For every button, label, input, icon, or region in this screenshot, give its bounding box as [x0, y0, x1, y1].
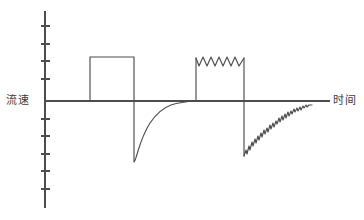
plot-area — [0, 0, 364, 220]
y-axis-label: 流速 — [6, 95, 29, 106]
pulse-two-sawtooth-top — [196, 57, 244, 66]
pulse-one-rectangular — [90, 57, 134, 101]
undershoot-two-recovery — [244, 105, 312, 156]
undershoot-one — [134, 101, 196, 162]
flow-rate-trace — [90, 57, 312, 162]
flow-rate-time-figure: 流速 时间 — [0, 0, 364, 220]
x-axis-label: 时间 — [333, 95, 356, 106]
